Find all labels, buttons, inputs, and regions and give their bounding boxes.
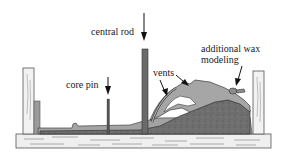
arrow-central-rod [141,13,147,41]
label-central-rod: central rod [91,27,134,37]
label-additional-wax-line2: modeling [201,55,239,65]
left-post [23,68,40,134]
arrow-additional-wax [235,66,242,86]
label-vents: vents [153,68,174,78]
core-pin [107,99,110,134]
diagram-canvas: central rod core pin vents additional wa… [0,0,282,157]
central-rod [142,49,148,134]
mold-illustration [0,0,282,157]
additional-wax-blob [229,88,245,94]
base-board [16,134,271,148]
right-post [253,71,264,134]
arrow-vent-left [160,80,168,96]
label-additional-wax-line1: additional wax [201,44,260,54]
arrow-core-pin [105,77,111,95]
label-core-pin: core pin [66,80,99,90]
